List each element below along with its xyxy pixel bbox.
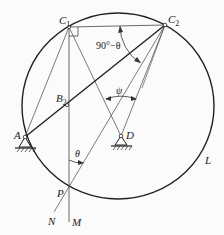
psi-arrow-left [105,96,111,101]
label-angle-theta: θ [75,149,80,159]
label-n: N [48,216,55,227]
label-circle-l: L [205,155,211,166]
label-c2: C2 [168,14,179,28]
arrow-head-bottom [134,57,141,63]
label-angle-90-theta: 90°−θ [96,41,120,51]
line-c1-c2 [69,25,165,27]
label-angle-psi: ψ [116,86,122,96]
label-d: D [126,130,134,141]
line-a-c2 [25,25,165,137]
joint-c2 [163,23,167,27]
linkage-diagram: C1 C2 B2 A D P N M L 90°−θ ψ θ [0,0,224,235]
line-c2-n [54,25,165,212]
label-p: P [57,188,64,199]
label-b2: B2 [56,93,67,107]
label-c1: C1 [59,15,70,29]
label-a: A [14,130,21,141]
diagram-graphics [0,0,224,235]
arrow-head-top [118,26,123,33]
label-m: M [72,217,81,228]
